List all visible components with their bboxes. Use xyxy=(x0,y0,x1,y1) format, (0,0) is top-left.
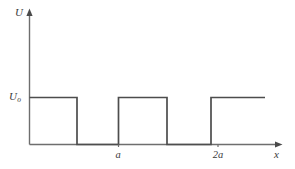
y-axis-arrowhead xyxy=(26,9,32,17)
x-axis-arrowhead xyxy=(275,141,283,147)
y-tick-label-u0-base: U xyxy=(9,90,17,102)
x-tick-label-a-text: a xyxy=(115,150,120,161)
potential-curve xyxy=(30,98,266,145)
potential-energy-diagram: U x Uo a 2a xyxy=(0,0,295,169)
x-tick-label-a: a xyxy=(108,150,128,161)
y-axis-label: U xyxy=(15,7,23,18)
y-tick-label-u0: Uo xyxy=(9,91,21,102)
plot-canvas xyxy=(0,0,295,169)
x-axis-label: x xyxy=(274,149,279,160)
y-tick-label-u0-subscript: o xyxy=(17,95,21,104)
x-tick-label-2a: 2a xyxy=(207,150,229,161)
x-tick-label-2a-text: 2a xyxy=(213,150,224,161)
